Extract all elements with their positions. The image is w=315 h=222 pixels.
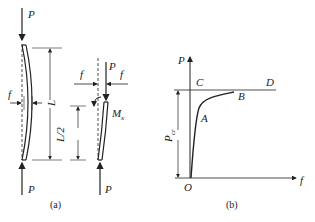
- half-deflection-label-right: f: [120, 68, 125, 80]
- svg-text:P: P: [162, 135, 174, 143]
- bottom-load-label: P: [27, 183, 35, 195]
- half-top-load-label: P: [108, 60, 116, 72]
- moment-arrow: [94, 97, 101, 106]
- half-deflection-label-left: f: [80, 68, 85, 80]
- f-axis-label: f: [300, 174, 305, 186]
- load-deflection-chart: P f O C D A B P cr: [162, 54, 305, 193]
- deflection-label: f: [8, 88, 13, 100]
- svg-text:cr: cr: [169, 129, 177, 135]
- panel-b-caption: (b): [226, 199, 238, 211]
- panel-a-caption: (a): [50, 199, 61, 211]
- half-length-label: L/2: [54, 127, 66, 143]
- p-axis-label: P: [177, 54, 185, 66]
- point-a-label: A: [200, 112, 208, 124]
- origin-label: O: [184, 181, 192, 193]
- half-bottom-load-label: P: [104, 183, 112, 195]
- euler-buckling-figure: P f L P: [0, 0, 315, 222]
- point-b-label: B: [238, 90, 245, 102]
- half-column-group: P f f M x L/2 P: [54, 58, 128, 195]
- length-label: L: [45, 100, 57, 107]
- column-right-edge: [26, 45, 32, 160]
- point-c-label: C: [196, 76, 204, 88]
- full-column-group: P f L P: [8, 8, 62, 195]
- column-left-edge: [22, 45, 28, 160]
- top-load-label: P: [27, 8, 35, 20]
- moment-subscript: x: [120, 114, 125, 122]
- point-d-label: D: [265, 76, 274, 88]
- critical-load-label: P cr: [162, 129, 177, 143]
- load-deflection-curve-oab: [191, 92, 234, 178]
- diagram-canvas: P f L P: [0, 0, 315, 222]
